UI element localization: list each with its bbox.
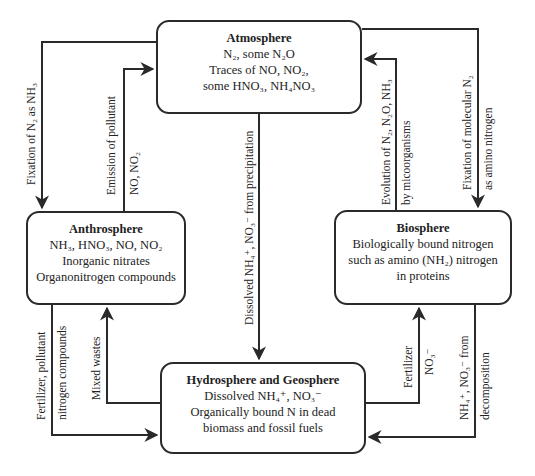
anthrosphere-line-2: Inorganic nitrates [28,253,184,269]
label-fertilizer-no3-2: NO₃⁻ [423,348,436,375]
anthrosphere-box: Anthrosphere NH₃, HNO₃, NO, NO₂ Inorgani… [26,211,186,305]
hydrosphere-line-2: Organically bound N in dead [162,404,364,420]
label-fertilizer-pollutant-1: Fertilizer, pollutant [35,332,48,420]
label-fixation-amino-2: as amino nitrogen [482,108,495,190]
anthrosphere-title: Anthrosphere [28,221,184,237]
anthrosphere-line-1: NH₃, HNO₃, NO, NO₂ [28,237,184,253]
biosphere-box: Biosphere Biologically bound nitrogen su… [334,210,512,305]
atmosphere-title: Atmosphere [158,30,360,46]
label-mixed-wastes: Mixed wastes [90,336,103,400]
hydrosphere-box: Hydrosphere and Geosphere Dissolved NH₄⁺… [160,362,366,454]
label-emission-1: Emission of pollutant [105,96,118,195]
label-decomposition-1: NH₄⁺, NO₃⁻ from [458,336,471,420]
label-decomposition-2: decomposition [479,352,492,420]
hydrosphere-title: Hydrosphere and Geosphere [162,372,364,388]
hydrosphere-line-3: biomass and fossil fuels [162,420,364,436]
label-emission-2: NO, NO₂ [128,152,141,195]
hydrosphere-line-1: Dissolved NH₄⁺, NO₃⁻ [162,388,364,404]
label-precipitation: Dissolved NH₄⁺, NO₃⁻ from precipitation [243,131,256,325]
label-evolution-1: Evolution of N₂, N₂O, NH₃ [380,79,393,205]
arrow-mixed-wastes [107,308,160,403]
biosphere-title: Biosphere [336,220,510,236]
atmosphere-line-1: N₂, some N₂O [158,46,360,62]
biosphere-line-1: Biologically bound nitrogen [336,236,510,252]
biosphere-line-3: in proteins [336,268,510,284]
biosphere-line-2: such as amino (NH₂) nitrogen [336,252,510,268]
atmosphere-line-2: Traces of NO, NO₂, [158,62,360,78]
atmosphere-box: Atmosphere N₂, some N₂O Traces of NO, NO… [156,20,362,114]
label-evolution-2: by micoorganisms [400,121,413,205]
atmosphere-line-3: some HNO₃, NH₄NO₃ [158,78,360,94]
label-fertilizer-pollutant-2: nitrogen compounds [56,326,69,420]
label-fertilizer-no3-1: Fertilizer [402,346,415,388]
anthrosphere-line-3: Organonitrogen compounds [28,269,184,285]
label-fixation-amino-1: Fixation of molecular N₂ [461,75,474,190]
label-fixation-nh3: Fixation of N₂ as NH₃ [25,83,38,185]
